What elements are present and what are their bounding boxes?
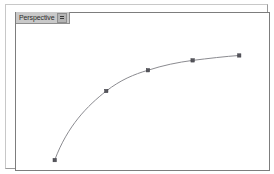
vertex-4[interactable]: [191, 59, 194, 62]
viewport-label-tab[interactable]: Perspective: [16, 12, 70, 24]
viewport-outer-frame: Perspective: [5, 4, 268, 169]
menu-bar-1: [60, 16, 64, 17]
menu-bar-2: [60, 18, 64, 19]
vertex-1[interactable]: [53, 158, 56, 161]
perspective-viewport[interactable]: [15, 12, 270, 171]
scene-canvas[interactable]: [16, 13, 269, 170]
spline-vertex-group: [53, 54, 241, 162]
vertex-3[interactable]: [146, 69, 149, 72]
hamburger-menu-icon[interactable]: [57, 13, 67, 23]
application-frame: Perspective: [0, 0, 274, 174]
viewport-label-text: Perspective: [19, 14, 54, 21]
vertex-5[interactable]: [238, 54, 241, 57]
vertex-2[interactable]: [105, 89, 108, 92]
menu-bars: [60, 16, 64, 20]
